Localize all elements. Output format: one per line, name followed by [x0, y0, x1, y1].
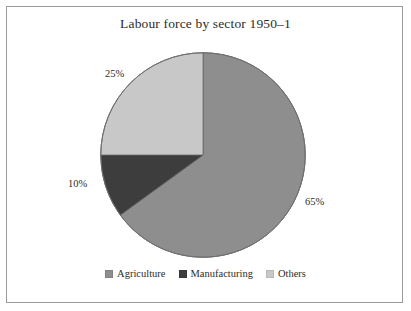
legend-item-manufacturing: Manufacturing: [179, 268, 253, 279]
pie-svg: [100, 52, 306, 258]
legend-label-agriculture: Agriculture: [117, 268, 165, 279]
legend-swatch-manufacturing: [179, 270, 187, 278]
pie-plot-area: [100, 52, 306, 258]
legend-label-others: Others: [278, 268, 306, 279]
slice-label-manufacturing: 10%: [68, 178, 87, 189]
chart-legend: Agriculture Manufacturing Others: [0, 268, 411, 279]
legend-label-manufacturing: Manufacturing: [191, 268, 253, 279]
pie-chart-figure: Labour force by sector 1950–1 25% 10% 65…: [0, 0, 411, 311]
slice-label-others: 25%: [105, 68, 124, 79]
slice-label-agriculture: 65%: [305, 196, 324, 207]
legend-item-agriculture: Agriculture: [105, 268, 165, 279]
pie-slices: [101, 53, 305, 257]
legend-swatch-others: [266, 270, 274, 278]
legend-item-others: Others: [266, 268, 306, 279]
chart-title: Labour force by sector 1950–1: [0, 16, 411, 32]
legend-swatch-agriculture: [105, 270, 113, 278]
